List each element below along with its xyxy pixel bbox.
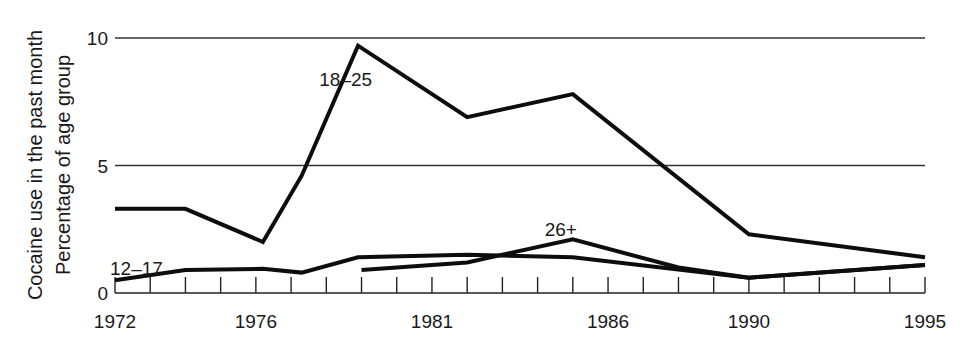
series-labels: 18–2512–1726+: [110, 69, 577, 279]
series-line-18-25: [115, 46, 925, 258]
data-series: [115, 46, 925, 281]
x-tick-label: 1986: [587, 311, 629, 332]
gridlines: [115, 38, 925, 166]
y-tick-label: 5: [97, 156, 108, 177]
y-axis-label-line: Percentage of age group: [52, 55, 74, 275]
series-label: 26+: [545, 219, 577, 240]
series-label: 18–25: [319, 69, 372, 90]
series-label: 12–17: [110, 258, 163, 279]
x-tick-label: 1981: [411, 311, 453, 332]
x-tick-label: 1972: [94, 311, 136, 332]
y-tick-label: 0: [97, 283, 108, 304]
x-axis: 197219761981198619901995: [94, 277, 946, 332]
x-tick-label: 1976: [235, 311, 277, 332]
y-tick-label: 10: [87, 28, 108, 49]
x-tick-label: 1990: [728, 311, 770, 332]
x-tick-label: 1995: [904, 311, 946, 332]
y-axis-label: Cocaine use in the past monthPercentage …: [24, 30, 74, 300]
line-chart: Cocaine use in the past monthPercentage …: [0, 0, 972, 350]
series-line-12-17: [115, 255, 925, 280]
y-axis-ticks: 0510: [87, 28, 108, 304]
y-axis-label-line: Cocaine use in the past month: [24, 30, 46, 300]
